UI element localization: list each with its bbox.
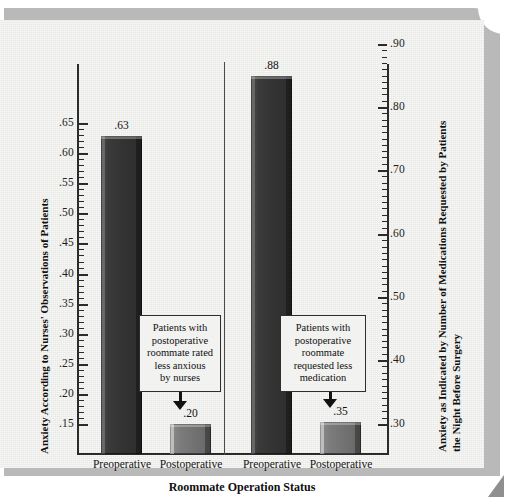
right-axis-tick-label-wrap: .80 [390, 100, 420, 112]
bar-cap [101, 136, 142, 139]
right-axis-minor-tick [382, 157, 387, 158]
left-axis-minor-tick [79, 340, 84, 341]
right-axis-minor-tick [382, 291, 387, 292]
left-axis-minor-tick [79, 400, 84, 401]
left-axis-tick-label-wrap: .65 [44, 116, 74, 128]
left-axis-minor-tick [79, 201, 84, 202]
left-axis-minor-tick [79, 237, 84, 238]
bar-pre-meds-value-label: .88 [244, 59, 299, 71]
annotation-line-0: Patients with [145, 322, 215, 335]
right-axis-tick-label: .40 [390, 353, 420, 365]
left-axis-major-tick [79, 243, 88, 245]
x-tick-label-1: Postoperative [147, 458, 235, 470]
annotation-box-meds: Patients withpostoperativeroommatereques… [280, 315, 366, 392]
left-axis-minor-tick [79, 418, 84, 419]
right-axis-minor-tick [382, 208, 387, 209]
right-axis-minor-tick [382, 176, 387, 177]
right-axis-minor-tick [382, 94, 387, 95]
right-axis-minor-tick [382, 126, 387, 127]
left-axis-minor-tick [79, 268, 84, 269]
bar-highlight [101, 136, 105, 454]
bar-pre-meds [251, 76, 292, 454]
left-axis-minor-tick [79, 286, 84, 287]
left-axis-minor-tick [79, 298, 84, 299]
right-axis-minor-tick [382, 132, 387, 133]
right-axis-minor-tick [382, 411, 387, 412]
annotation-line-3: requested less [286, 360, 360, 373]
right-axis-minor-tick [382, 266, 387, 267]
bar-shade [136, 136, 142, 454]
left-axis-major-tick [79, 153, 88, 155]
right-axis-minor-tick [382, 373, 387, 374]
right-axis-minor-tick [382, 139, 387, 140]
left-axis-major-tick [79, 364, 88, 366]
right-axis-tick-label: .70 [390, 163, 420, 175]
annotation-line-4: medication [286, 372, 360, 385]
left-axis-minor-tick [79, 255, 84, 256]
right-axis-minor-tick [382, 341, 387, 342]
left-axis-minor-tick [79, 189, 84, 190]
right-axis-minor-tick [382, 164, 387, 165]
left-axis-minor-tick [79, 147, 84, 148]
right-axis-tick-label-wrap: .40 [390, 353, 420, 365]
right-axis-minor-tick [382, 398, 387, 399]
left-axis-minor-tick [79, 262, 84, 263]
left-axis-tick-label-wrap: .60 [44, 146, 74, 158]
right-axis-tick-label-wrap: .30 [390, 417, 420, 429]
right-axis-major-tick [378, 170, 387, 172]
right-axis-minor-tick [382, 278, 387, 279]
x-axis-title: Roommate Operation Status [0, 480, 484, 495]
chart-page: .65.60.55.50.45.40.35.30.25.20.15 .90.80… [0, 0, 508, 503]
page-corner-triangle [488, 475, 504, 497]
right-axis-minor-tick [382, 259, 387, 260]
chart-canvas: .65.60.55.50.45.40.35.30.25.20.15 .90.80… [0, 20, 484, 468]
bar-shade [286, 76, 292, 454]
annotation-line-4: by nurses [145, 372, 215, 385]
right-axis-title-line1: Anxiety as Indicated by Number of Medica… [436, 121, 448, 452]
left-axis-minor-tick [79, 171, 84, 172]
right-axis-minor-tick [382, 310, 387, 311]
left-axis-major-tick [79, 334, 88, 336]
right-axis-major-tick [378, 360, 387, 362]
left-axis-minor-tick [79, 219, 84, 220]
left-axis-major-tick [79, 394, 88, 396]
right-axis-minor-tick [382, 189, 387, 190]
right-axis-minor-tick [382, 347, 387, 348]
left-axis-minor-tick [79, 225, 84, 226]
right-axis-minor-tick [382, 329, 387, 330]
right-axis-minor-tick [382, 303, 387, 304]
bar-cap [170, 424, 211, 427]
left-axis-minor-tick [79, 316, 84, 317]
right-axis-minor-tick [382, 50, 387, 51]
right-axis-minor-tick [382, 322, 387, 323]
right-axis-minor-tick [382, 183, 387, 184]
right-axis-minor-tick [382, 418, 387, 419]
right-axis-tick-label-wrap: .90 [390, 37, 420, 49]
left-axis-minor-tick [79, 346, 84, 347]
right-axis-major-tick [378, 297, 387, 299]
annotation-line-1: postoperative [145, 335, 215, 348]
annotation-line-3: less anxious [145, 360, 215, 373]
right-axis-minor-tick [382, 63, 387, 64]
bar-cap [320, 422, 361, 425]
left-axis-title: Anxiety According to Nurses' Observation… [38, 199, 50, 454]
right-axis-tick-label-wrap: .70 [390, 163, 420, 175]
right-axis-minor-tick [382, 76, 387, 77]
left-axis-tick-label: .55 [44, 176, 74, 188]
bar-post-nurses-value-label: .20 [163, 407, 218, 419]
right-axis-minor-tick [382, 145, 387, 146]
right-axis-minor-tick [382, 57, 387, 58]
left-axis-minor-tick [79, 135, 84, 136]
right-axis-minor-tick [382, 228, 387, 229]
right-axis-minor-tick [382, 335, 387, 336]
annotation-box-nurses: Patients withpostoperativeroommate rated… [139, 315, 221, 392]
right-axis-minor-tick [382, 196, 387, 197]
left-axis-minor-tick [79, 412, 84, 413]
left-axis-minor-tick [79, 388, 84, 389]
right-axis-tick-label: .30 [390, 417, 420, 429]
right-axis-minor-tick [382, 240, 387, 241]
left-axis-minor-tick [79, 141, 84, 142]
bar-highlight [320, 422, 324, 454]
right-axis-minor-tick [382, 316, 387, 317]
left-axis-minor-tick [79, 322, 84, 323]
